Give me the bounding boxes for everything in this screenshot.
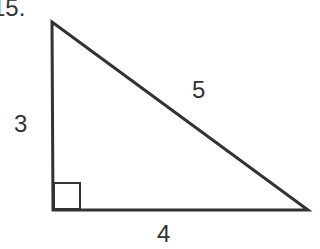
- right-angle-marker: [54, 183, 80, 209]
- triangle-diagram: [0, 0, 320, 249]
- label-horizontal-leg: 4: [157, 222, 170, 246]
- label-vertical-leg: 3: [14, 112, 27, 136]
- problem-number: 15.: [0, 0, 25, 20]
- label-hypotenuse: 5: [192, 78, 205, 102]
- right-triangle: [52, 22, 308, 210]
